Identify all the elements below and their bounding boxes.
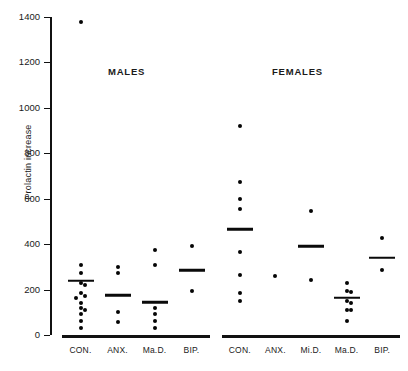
data-point — [238, 207, 242, 211]
data-point — [345, 281, 349, 285]
data-point — [79, 271, 83, 275]
data-point — [116, 320, 120, 324]
data-point — [349, 301, 353, 305]
mean-line — [105, 294, 131, 297]
data-point — [79, 263, 83, 267]
data-point — [345, 289, 349, 293]
group-label-females-3: Ma.D. — [335, 345, 359, 355]
mean-line — [298, 245, 324, 248]
data-point — [79, 306, 83, 310]
data-point — [345, 319, 349, 323]
data-point — [74, 296, 78, 300]
data-point — [79, 326, 83, 330]
group-label-females-4: BIP. — [374, 345, 390, 355]
y-axis-tick-label: 600 — [0, 193, 40, 204]
data-point — [380, 268, 384, 272]
y-axis-tick-label: 1400 — [0, 11, 40, 22]
data-point — [83, 283, 87, 287]
data-point — [238, 299, 242, 303]
group-label-females-1: ANX. — [265, 345, 286, 355]
data-point — [153, 248, 157, 252]
mean-line — [179, 269, 205, 272]
data-point — [238, 180, 242, 184]
data-point — [238, 273, 242, 277]
mean-line — [227, 228, 253, 231]
data-point — [153, 306, 157, 310]
panel-title-males: MALES — [108, 66, 145, 77]
panel-title-females: FEMALES — [272, 66, 323, 77]
group-label-males-0: CON. — [69, 345, 91, 355]
data-point — [238, 250, 242, 254]
data-point — [380, 236, 384, 240]
data-point — [349, 290, 353, 294]
y-axis-tick — [44, 153, 50, 154]
data-point — [153, 312, 157, 316]
data-point — [345, 308, 349, 312]
mean-line — [68, 280, 94, 283]
y-axis-line — [50, 17, 52, 335]
data-point — [153, 319, 157, 323]
group-label-females-0: CON. — [229, 345, 251, 355]
data-point — [79, 20, 83, 24]
group-label-males-3: BIP. — [184, 345, 200, 355]
data-point — [153, 326, 157, 330]
y-axis-tick-label: 400 — [0, 238, 40, 249]
data-point — [79, 319, 83, 323]
group-label-females-2: Mi.D. — [301, 345, 322, 355]
y-axis-tick — [44, 335, 50, 336]
group-label-males-2: Ma.D. — [143, 345, 167, 355]
baseline-males — [62, 335, 210, 338]
data-point — [83, 308, 87, 312]
data-point — [349, 308, 353, 312]
data-point — [79, 312, 83, 316]
y-axis-tick-label: 1200 — [0, 56, 40, 67]
data-point — [309, 209, 313, 213]
y-axis-tick — [44, 108, 50, 109]
prolactin-increase-scatter-chart: Prolactin increase 020040060080010001200… — [0, 0, 408, 371]
data-point — [116, 310, 120, 314]
data-point — [79, 301, 83, 305]
data-point — [238, 291, 242, 295]
data-point — [79, 291, 83, 295]
data-point — [83, 294, 87, 298]
data-point — [190, 289, 194, 293]
y-axis-tick — [44, 17, 50, 18]
mean-line — [142, 301, 168, 304]
data-point — [309, 278, 313, 282]
y-axis-tick — [44, 290, 50, 291]
y-axis-tick-label: 0 — [0, 329, 40, 340]
y-axis-tick-label: 200 — [0, 284, 40, 295]
data-point — [238, 197, 242, 201]
mean-line — [334, 296, 360, 299]
y-axis-tick — [44, 244, 50, 245]
group-label-males-1: ANX. — [107, 345, 128, 355]
data-point — [190, 244, 194, 248]
mean-line — [369, 257, 395, 260]
data-point — [345, 299, 349, 303]
y-axis-tick — [44, 199, 50, 200]
data-point — [238, 124, 242, 128]
y-axis-tick — [44, 62, 50, 63]
data-point — [116, 271, 120, 275]
baseline-females — [222, 335, 400, 338]
y-axis-tick-label: 1000 — [0, 102, 40, 113]
y-axis-tick-label: 800 — [0, 147, 40, 158]
data-point — [273, 274, 277, 278]
data-point — [116, 265, 120, 269]
data-point — [153, 263, 157, 267]
